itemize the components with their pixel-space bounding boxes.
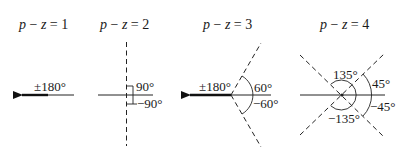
panel-title: p − z = 2 xyxy=(99,17,149,32)
panel-pz-2: p − z = 2 90° −90° xyxy=(98,17,163,146)
panel-title: p − z = 4 xyxy=(319,17,369,32)
panel-title: p − z = 1 xyxy=(18,17,68,32)
root-locus-asymptote-diagram: p − z = 1 ±180° p − z = 2 90° −90° p − z… xyxy=(0,0,407,155)
angle-label-minus-90: −90° xyxy=(137,96,163,111)
panel-pz-4: p − z = 4 135° 45° −135° −45° xyxy=(300,17,396,136)
angle-label-minus-135: −135° xyxy=(328,111,360,126)
angle-label-90: 90° xyxy=(136,79,154,94)
angle-label-60: 60° xyxy=(254,80,272,95)
panel-pz-1: p − z = 1 ±180° xyxy=(18,17,74,95)
angle-label-180: ±180° xyxy=(199,79,231,94)
angle-label-minus-45: −45° xyxy=(370,99,396,114)
angle-label-minus-60: −60° xyxy=(253,96,279,111)
panel-pz-3: p − z = 3 ±180° 60° −60° xyxy=(190,17,279,147)
panel-title: p − z = 3 xyxy=(202,17,252,32)
angle-label-45: 45° xyxy=(372,76,390,91)
centroid-point xyxy=(340,93,343,96)
angle-label-135: 135° xyxy=(333,67,358,82)
angle-label-180: ±180° xyxy=(34,79,66,94)
